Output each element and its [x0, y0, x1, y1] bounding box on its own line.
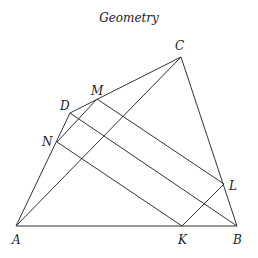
- geometry-figure: ABCDMNKL: [0, 0, 258, 258]
- segment-DC: [70, 57, 181, 113]
- point-label-M: M: [90, 84, 104, 98]
- segment-ML: [97, 99, 224, 184]
- segment-DB: [70, 113, 237, 226]
- point-label-D: D: [59, 99, 70, 113]
- segment-AD: [16, 113, 70, 226]
- point-label-B: B: [232, 233, 242, 247]
- point-label-K: K: [177, 233, 188, 247]
- point-label-A: A: [11, 233, 21, 247]
- point-label-L: L: [228, 179, 237, 193]
- segment-CB: [181, 57, 237, 226]
- segment-AC: [16, 57, 181, 226]
- point-label-N: N: [41, 135, 53, 149]
- segment-NK: [57, 142, 182, 226]
- point-label-C: C: [175, 39, 184, 53]
- segment-KL: [182, 184, 224, 226]
